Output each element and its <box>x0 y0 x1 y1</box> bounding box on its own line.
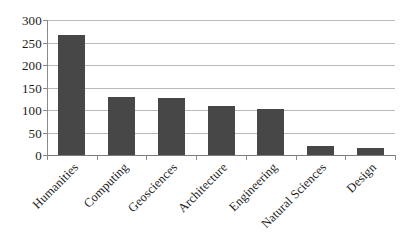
bar <box>158 98 185 155</box>
y-tick-label: 300 <box>8 14 42 27</box>
bar <box>257 109 284 155</box>
bar <box>307 146 334 155</box>
y-tick-mark <box>43 20 48 21</box>
y-tick-label: 200 <box>8 59 42 72</box>
bar <box>357 148 384 155</box>
x-axis-category-labels: HumanitiesComputingGeosciencesArchitectu… <box>0 155 411 249</box>
bar <box>108 97 135 156</box>
y-tick-label: 250 <box>8 37 42 50</box>
y-tick-mark <box>43 155 48 156</box>
bar-chart-figure: 050100150200250300 HumanitiesComputingGe… <box>0 0 411 249</box>
x-category-label: Humanities <box>0 161 81 249</box>
y-tick-mark <box>43 133 48 134</box>
y-tick-mark <box>43 65 48 66</box>
y-tick-label: 150 <box>8 82 42 95</box>
y-tick-mark <box>43 88 48 89</box>
bars-layer <box>47 20 395 155</box>
bar <box>58 35 85 155</box>
bar <box>208 106 235 156</box>
y-tick-label: 50 <box>8 127 42 140</box>
y-tick-label: 100 <box>8 104 42 117</box>
y-tick-mark <box>43 43 48 44</box>
y-tick-mark <box>43 110 48 111</box>
